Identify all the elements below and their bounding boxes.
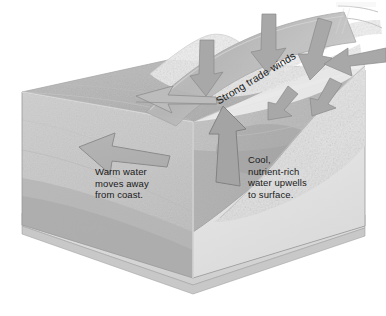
label-warm-water: Warm water moves away from coast. [95, 166, 149, 201]
upwelling-diagram-figure: Warm water moves away from coast. Cool, … [0, 0, 386, 316]
diagram-canvas [0, 0, 386, 316]
label-cool-water: Cool, nutrient-rich water upwells to sur… [248, 154, 307, 200]
